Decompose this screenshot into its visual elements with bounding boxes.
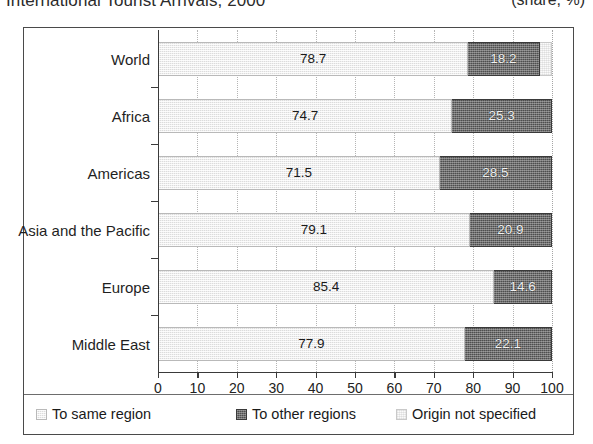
x-axis-tick (276, 372, 277, 378)
bar-segment[interactable] (540, 42, 552, 76)
y-axis-tick (151, 315, 158, 316)
units-label: (share, %) (511, 0, 585, 9)
bar-segment[interactable]: 74.7 (158, 99, 452, 133)
x-axis-tick (513, 372, 514, 378)
bar-row[interactable]: 79.120.9 (158, 213, 552, 247)
bar-value-label: 77.9 (298, 336, 324, 351)
bar-series-group: 78.718.274.725.371.528.579.120.985.414.6… (158, 30, 552, 372)
bar-row[interactable]: 74.725.3 (158, 99, 552, 133)
bar-value-label: 14.6 (510, 279, 536, 294)
plot-area: 78.718.274.725.371.528.579.120.985.414.6… (158, 30, 552, 372)
category-label: Americas (87, 164, 150, 181)
x-axis-tick (394, 372, 395, 378)
bar-segment[interactable]: 14.6 (494, 270, 552, 304)
x-axis-tick (473, 372, 474, 378)
bar-value-label: 85.4 (313, 279, 339, 294)
category-label: Africa (112, 107, 150, 124)
category-label: Middle East (72, 335, 150, 352)
bar-segment[interactable]: 85.4 (158, 270, 494, 304)
x-axis-tick (316, 372, 317, 378)
bar-value-label: 78.7 (300, 51, 326, 66)
legend-swatch-icon (36, 409, 47, 420)
bar-value-label: 28.5 (482, 165, 508, 180)
legend-label: Origin not specified (412, 406, 536, 422)
chart-title: International Tourist Arrivals, 2000 (6, 0, 265, 11)
category-label: World (111, 50, 150, 67)
legend-label: To other regions (252, 406, 356, 422)
chart-frame: 78.718.274.725.371.528.579.120.985.414.6… (23, 27, 574, 435)
category-label: Asia and the Pacific (18, 221, 150, 238)
bar-value-label: 74.7 (292, 108, 318, 123)
legend-item[interactable]: To other regions (236, 406, 356, 422)
y-axis-tick (151, 201, 158, 202)
chart-header: International Tourist Arrivals, 2000 (sh… (0, 0, 593, 17)
y-axis-line (158, 30, 159, 373)
y-axis-tick (151, 144, 158, 145)
x-axis-tick (355, 372, 356, 378)
bar-segment[interactable]: 18.2 (468, 42, 540, 76)
x-axis-tick (552, 372, 553, 378)
bar-value-label: 18.2 (490, 51, 516, 66)
bar-value-label: 71.5 (286, 165, 312, 180)
bar-value-label: 25.3 (489, 108, 515, 123)
bar-row[interactable]: 78.718.2 (158, 42, 552, 76)
bar-value-label: 20.9 (497, 222, 523, 237)
bar-segment[interactable]: 71.5 (158, 156, 440, 190)
bar-value-label: 22.1 (495, 336, 521, 351)
bar-row[interactable]: 85.414.6 (158, 270, 552, 304)
legend-item[interactable]: To same region (36, 406, 151, 422)
legend-label: To same region (52, 406, 151, 422)
bar-row[interactable]: 77.922.1 (158, 327, 552, 361)
y-axis-tick (151, 258, 158, 259)
x-axis-tick (158, 372, 159, 378)
bar-value-label: 79.1 (301, 222, 327, 237)
bar-segment[interactable]: 28.5 (440, 156, 552, 190)
legend-swatch-icon (236, 409, 247, 420)
bar-segment[interactable]: 78.7 (158, 42, 468, 76)
bar-segment[interactable]: 25.3 (452, 99, 552, 133)
x-axis-tick (237, 372, 238, 378)
legend-item[interactable]: Origin not specified (396, 406, 536, 422)
x-axis-tick (197, 372, 198, 378)
x-axis-tick (434, 372, 435, 378)
category-label: Europe (102, 278, 150, 295)
bar-row[interactable]: 71.528.5 (158, 156, 552, 190)
bar-segment[interactable]: 79.1 (158, 213, 470, 247)
bar-segment[interactable]: 22.1 (465, 327, 552, 361)
bar-segment[interactable]: 20.9 (470, 213, 552, 247)
chart-legend: To same regionTo other regionsOrigin not… (24, 394, 573, 434)
bar-segment[interactable]: 77.9 (158, 327, 465, 361)
y-axis-tick (151, 87, 158, 88)
gridline (552, 30, 554, 372)
legend-swatch-icon (396, 409, 407, 420)
